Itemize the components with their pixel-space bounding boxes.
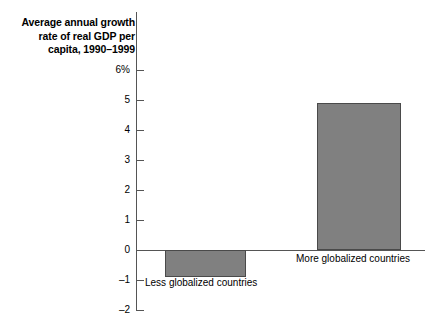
y-axis-tick-label: 2 bbox=[70, 185, 130, 195]
bar-label-less-globalized: Less globalized countries bbox=[145, 277, 257, 289]
y-axis-tick bbox=[137, 70, 144, 71]
y-axis-tick bbox=[137, 160, 144, 161]
bar-label-more-globalized: More globalized countries bbox=[296, 253, 410, 265]
y-axis-tick-label: 6% bbox=[70, 65, 130, 75]
y-axis-tick bbox=[137, 190, 144, 191]
bar-more-globalized bbox=[317, 103, 401, 250]
y-axis-tick bbox=[137, 100, 144, 101]
y-axis-tick bbox=[137, 280, 144, 281]
bar-less-globalized bbox=[165, 250, 246, 277]
y-axis-tick bbox=[137, 220, 144, 221]
y-axis-tick-label: 4 bbox=[70, 125, 130, 135]
chart-title: Average annual growth rate of real GDP p… bbox=[8, 16, 135, 57]
y-axis-line bbox=[136, 12, 137, 311]
y-axis-tick-label: –1 bbox=[70, 275, 130, 285]
y-axis-tick-label: –2 bbox=[70, 305, 130, 315]
y-axis-tick bbox=[137, 130, 144, 131]
y-axis-tick-label: 0 bbox=[70, 245, 130, 255]
y-axis-tick-label: 3 bbox=[70, 155, 130, 165]
chart-figure: Average annual growth rate of real GDP p… bbox=[0, 0, 446, 322]
y-axis-tick-label: 5 bbox=[70, 95, 130, 105]
y-axis-tick bbox=[137, 250, 144, 251]
y-axis-tick bbox=[137, 310, 144, 311]
y-axis-tick-label: 1 bbox=[70, 215, 130, 225]
